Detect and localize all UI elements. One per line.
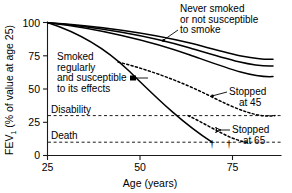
smoked-regularly-annotation-line-3: and susceptible xyxy=(57,72,127,83)
chart-canvas: 100 75 50 25 0 25 50 75 Age (years) FEV1… xyxy=(0,0,292,193)
stopped-at-45-leader-line xyxy=(212,92,227,96)
stopped-at-45-annotation-line-1: Stopped xyxy=(229,86,266,97)
y-tick-labels: 100 75 50 25 0 xyxy=(22,17,40,162)
disability-threshold-label: Disability xyxy=(51,104,91,115)
smoked-regularly-annotation-line-1: Smoked xyxy=(57,51,94,62)
stopped-at-65-annotation-line-2: at 65 xyxy=(243,135,266,146)
stopped-at-45-annotation-line-2: at 45 xyxy=(239,97,262,108)
stopped-at-45-annotation-group: Stopped at 45 xyxy=(211,86,266,108)
never-smoked-annotation-group: Never smoked or not susceptible to smoke xyxy=(162,3,259,42)
never-smoked-annotation-line-1: Never smoked xyxy=(180,3,244,14)
y-tick-label-100: 100 xyxy=(22,17,40,29)
x-tick-label-25: 25 xyxy=(42,161,54,173)
y-tick-label-50: 50 xyxy=(28,83,40,95)
y-ticks-group xyxy=(43,23,48,156)
y-tick-label-75: 75 xyxy=(28,50,40,62)
stopped-at-65-annotation-line-1: Stopped xyxy=(232,124,269,135)
smoked-regularly-annotation-group: Smoked regularly and susceptible to its … xyxy=(57,51,148,94)
death-marker-smoker-icon: † xyxy=(209,137,215,149)
y-axis-title: FEV1 (% of value at age 25) xyxy=(3,25,17,155)
y-tick-label-0: 0 xyxy=(34,149,40,161)
never-smoked-leader-dot xyxy=(162,39,165,42)
x-tick-labels: 25 50 75 xyxy=(42,161,239,173)
smoked-regularly-annotation-line-2: regularly xyxy=(57,62,95,73)
y-axis-title-group: FEV1 (% of value at age 25) xyxy=(3,25,17,155)
fev1-decline-chart: 100 75 50 25 0 25 50 75 Age (years) FEV1… xyxy=(0,0,292,193)
y-axis-title-rest: (% of value at age 25) xyxy=(3,25,15,131)
x-ticks-group xyxy=(48,156,233,161)
x-axis-title: Age (years) xyxy=(123,177,177,189)
y-axis-title-main: FEV xyxy=(3,135,15,155)
smoked-regularly-leader-dot xyxy=(130,76,136,81)
x-tick-label-50: 50 xyxy=(134,161,146,173)
death-markers-group: † † xyxy=(209,137,232,149)
death-marker-stopped-65-icon: † xyxy=(226,137,232,149)
smoked-regularly-annotation-line-4: to its effects xyxy=(57,83,110,94)
never-smoked-annotation-line-2: or not susceptible xyxy=(180,14,259,25)
death-threshold-label: Death xyxy=(51,130,78,141)
y-tick-label-25: 25 xyxy=(28,116,40,128)
never-smoked-annotation-line-3: to smoke xyxy=(180,24,221,35)
x-tick-label-75: 75 xyxy=(227,161,239,173)
stopped-at-45-leader-dot xyxy=(211,95,214,98)
